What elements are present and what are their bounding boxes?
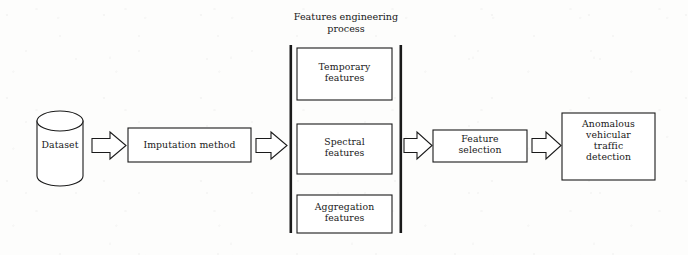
arrow-features-to-selection-shape <box>404 132 432 159</box>
feature-selection-label-line-2: selection <box>433 145 527 156</box>
detection-label-line-4: detection <box>562 152 655 163</box>
spectral-features-label-line-2: features <box>297 148 392 159</box>
features-group-right-bracket <box>400 45 403 233</box>
flowchart-diagram: Features engineering process Dataset Imp… <box>0 0 688 255</box>
arrow-dataset-to-imputation-shape <box>92 132 126 159</box>
title-line-2: process <box>286 23 406 35</box>
detection-label: Anomalous vehicular traffic detection <box>562 119 655 163</box>
temporary-features-label-line-2: features <box>297 73 392 84</box>
temporary-features-label: Temporary features <box>297 62 392 84</box>
aggregation-features-label-line-2: features <box>297 213 392 224</box>
title-line-1: Features engineering <box>286 11 406 23</box>
arrow-imputation-to-features-shape <box>256 132 287 159</box>
aggregation-features-label: Aggregation features <box>297 202 392 224</box>
features-group-left-bracket <box>290 45 293 233</box>
dataset-label: Dataset <box>30 140 90 151</box>
spectral-features-label: Spectral features <box>297 137 392 159</box>
imputation-method-label: Imputation method <box>128 140 251 151</box>
feature-selection-label: Feature selection <box>433 134 527 156</box>
arrow-selection-to-detection-shape <box>532 132 561 159</box>
features-engineering-title: Features engineering process <box>286 11 406 35</box>
